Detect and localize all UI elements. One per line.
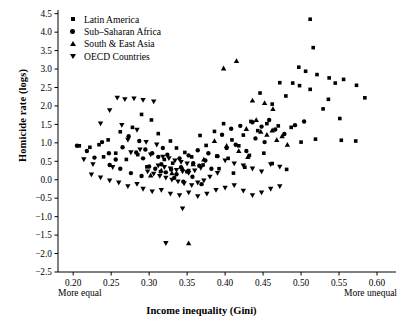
data-point [250,193,255,198]
scatter-plot-figure: −2.5−2.0−1.5−1.0−0.50.00.51.01.52.02.53.… [0,0,403,325]
data-point [131,96,136,101]
data-point [258,91,262,95]
data-point [253,136,257,140]
data-point [166,156,171,161]
data-point [147,164,151,168]
data-point [297,65,301,69]
data-point [118,166,122,170]
data-point [192,168,197,173]
data-point [140,113,144,117]
data-point [107,108,112,113]
x-tick-label: 0.55 [331,278,348,288]
data-point [224,143,229,148]
x-tick-label: 0.20 [65,278,82,288]
data-point [232,171,236,175]
data-point [244,149,248,153]
data-point [168,192,173,197]
data-point [140,98,145,103]
data-point [110,165,115,170]
data-point [106,138,110,142]
data-point [215,171,220,176]
data-point [126,134,130,138]
data-point [107,151,111,155]
data-point [230,138,234,142]
data-point [164,170,168,174]
data-point [259,191,264,196]
data-point [162,165,167,170]
data-point [314,137,318,141]
data-point [340,138,344,142]
data-point [302,119,306,123]
data-point [165,152,169,156]
data-point [98,175,103,180]
data-point [213,130,217,134]
y-tick-label: 0.0 [40,175,52,185]
data-point [137,139,141,143]
chart-legend: Latin AmericaSub–Saharan AfricaSouth & E… [66,13,161,63]
x-tick-label: 0.40 [217,278,234,288]
data-point [154,143,159,148]
data-point [119,123,124,128]
data-point [102,155,106,159]
data-point [293,123,297,127]
legend-item: Latin America [66,13,161,25]
series-triangle-down [81,96,282,246]
circle-marker-icon [66,29,79,34]
data-point [236,148,241,153]
data-point [327,98,331,102]
data-point [156,132,160,136]
data-point [284,94,288,98]
data-point [338,117,342,121]
data-point [285,168,289,172]
data-point [234,58,239,63]
data-point [134,150,138,154]
data-point [215,154,219,158]
data-point [128,150,133,155]
data-point [298,84,302,88]
data-point [143,147,147,151]
data-point [265,122,269,126]
data-point [222,186,227,191]
data-point [256,129,260,133]
data-point [175,146,179,150]
data-point [90,162,95,167]
data-point [107,178,112,183]
data-point [92,155,96,159]
data-point [120,145,124,149]
data-point [198,134,202,138]
data-point [75,144,79,148]
x-axis-right-annotation: More unequal [344,288,397,298]
data-point [125,158,129,162]
y-tick-label: 2.5 [40,83,52,93]
data-point [207,175,212,180]
data-point [134,182,139,187]
data-point [190,175,194,179]
data-point [175,179,180,184]
y-tick-label: 1.0 [40,138,52,148]
x-tick-label: 0.35 [179,278,196,288]
data-point [206,151,210,155]
y-tick-label: 3.5 [40,46,52,56]
data-point [116,181,121,186]
data-point [229,127,233,131]
data-point [278,81,282,85]
data-point [131,126,135,130]
data-point [171,161,175,165]
data-point [145,170,150,175]
data-point [141,156,145,160]
data-point [222,158,227,163]
x-tick-label: 0.25 [103,278,120,288]
data-point [304,69,308,73]
data-point [195,194,200,199]
data-point [177,193,182,198]
data-point [156,155,160,159]
x-axis-title: Income inequality (Gini) [0,305,403,316]
y-tick-label: 3.0 [40,64,52,74]
data-point [163,176,168,181]
x-tick-label: 0.60 [369,278,386,288]
y-tick-label: 1.5 [40,120,52,130]
y-tick-label: 2.0 [40,101,52,111]
y-tick-label: −2.0 [35,249,52,259]
data-point [277,165,282,170]
x-axis-left-annotation: More equal [58,288,102,298]
